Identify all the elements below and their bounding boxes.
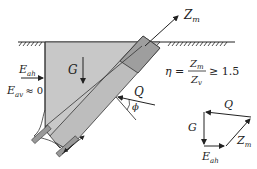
safety-factor-formula: η = Zm Zv ≥ 1.5 xyxy=(165,58,239,87)
svg-text:η =: η = xyxy=(165,65,184,78)
anchor-force-label: Zm xyxy=(183,8,200,24)
earth-pressure-h-label: Eah xyxy=(18,63,36,78)
reaction-label: Q xyxy=(134,85,144,99)
friction-angle-arc xyxy=(127,99,130,110)
svg-text:Zv: Zv xyxy=(190,74,202,87)
svg-text:≥ 1.5: ≥ 1.5 xyxy=(209,65,239,78)
svg-text:Zm: Zm xyxy=(189,58,204,71)
anchored-soil-block-diagram: Zm G Eah Eav≈ 0 Q ϕ η = Zm Zv ≥ 1.5 Q G … xyxy=(0,0,257,169)
svg-text:G: G xyxy=(188,121,197,134)
svg-text:Eah: Eah xyxy=(201,150,219,165)
svg-text:Zm: Zm xyxy=(236,134,252,149)
weight-label: G xyxy=(68,63,78,77)
earth-pressure-v-label: Eav≈ 0 xyxy=(6,84,43,99)
svg-text:Q: Q xyxy=(224,98,233,111)
force-polygon: Q G Eah Zm xyxy=(188,98,252,165)
friction-angle-label: ϕ xyxy=(132,101,139,112)
